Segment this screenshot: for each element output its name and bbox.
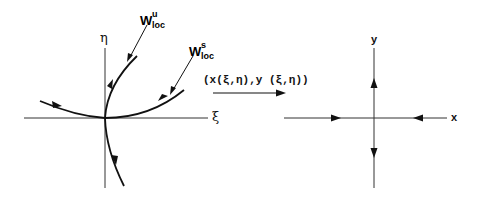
arrow-down-icon: [371, 148, 378, 158]
wu-superscript: u: [152, 10, 158, 19]
mapping-arrowhead-icon: [276, 90, 286, 97]
stable-manifold-label: W s loc: [189, 45, 219, 65]
ws-base: W: [189, 44, 201, 59]
arrow-up-icon: [371, 78, 378, 88]
unstable-manifold-lower-curve: [105, 118, 124, 186]
eta-axis-label: η: [100, 31, 108, 44]
diagram-canvas: [0, 0, 479, 201]
arrow-right-icon: [331, 115, 341, 122]
label-leaders: [130, 25, 193, 90]
manifold-curves: [40, 56, 184, 186]
xi-axis-label: ξ: [212, 110, 219, 123]
arrow-right-icon: [52, 101, 62, 108]
arrow-up-icon: [107, 79, 113, 89]
wu-base: W: [140, 13, 152, 28]
y-axis-label: y: [371, 34, 377, 45]
unstable-manifold-label: W u loc: [140, 14, 170, 34]
wu-subscript: loc: [152, 21, 165, 30]
ws-superscript: s: [201, 41, 206, 50]
ws-subscript: loc: [201, 52, 214, 61]
x-axis-label: x: [451, 112, 457, 123]
arrow-left-icon: [413, 115, 423, 122]
arrow-left-icon: [158, 94, 168, 101]
mapping-label: (x(ξ,η),y (ξ,η)): [203, 75, 309, 86]
